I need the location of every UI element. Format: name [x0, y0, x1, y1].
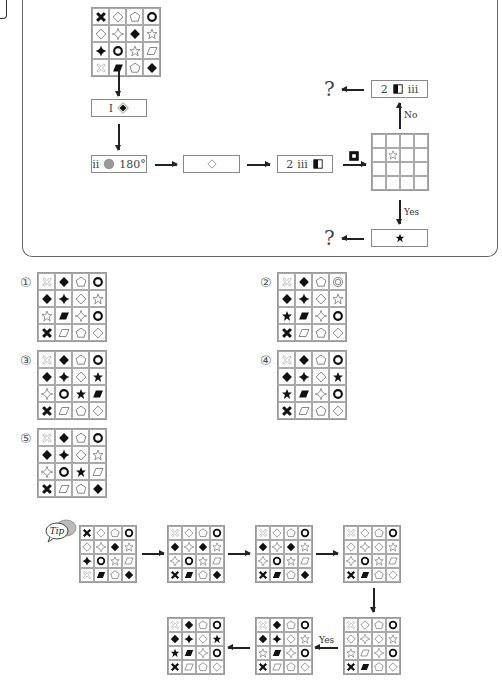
condition-square-icon	[348, 150, 360, 162]
empty-cell	[400, 162, 414, 176]
step4-num: 2	[286, 158, 293, 171]
star-outline-icon	[38, 307, 55, 324]
step2-box: ii 180°	[91, 155, 147, 173]
sparkle-outline-icon	[38, 463, 55, 480]
option-4-number: ④	[260, 353, 272, 368]
step3-box	[183, 155, 240, 173]
diamond-outline-icon	[72, 290, 89, 307]
cross-black-icon	[182, 632, 196, 646]
diamond-black-icon	[278, 290, 295, 307]
option-5-grid[interactable]	[37, 428, 107, 498]
sparkle-outline-icon	[312, 385, 329, 402]
empty-cell	[372, 162, 386, 176]
empty-cell	[400, 176, 414, 190]
diamond-outline-icon	[89, 402, 106, 419]
star-outline-icon	[122, 540, 136, 554]
pentagon-outline-icon	[284, 568, 298, 582]
x-black-icon	[344, 660, 358, 674]
x-black-icon	[256, 568, 270, 582]
diamond-black-icon	[89, 480, 106, 497]
page-corner-mark	[0, 0, 7, 19]
parallelogram-black-icon	[358, 568, 372, 582]
parallelogram-black-icon	[295, 385, 312, 402]
x-outline-icon	[92, 59, 109, 76]
empty-cell	[386, 176, 400, 190]
half-filled-square-icon	[312, 158, 324, 170]
ring-bold-icon	[210, 646, 224, 660]
tip-yes-label: Yes	[319, 635, 334, 645]
x-black-icon	[38, 402, 55, 419]
diamond-outline-icon	[109, 8, 126, 25]
ring-bold-icon	[210, 618, 224, 632]
diamond-black-icon	[168, 540, 182, 554]
parallelogram-outline-icon	[55, 402, 72, 419]
diamond-black-icon	[298, 568, 312, 582]
arrow-left-no	[342, 89, 364, 91]
star-black-icon	[89, 368, 106, 385]
parallelogram-outline-icon	[55, 480, 72, 497]
ring-bold-icon	[298, 618, 312, 632]
pentagon-outline-icon	[284, 660, 298, 674]
option-3-grid[interactable]	[37, 350, 107, 420]
diamond-black-icon	[38, 446, 55, 463]
pentagon-outline-icon	[312, 273, 329, 290]
x-outline-icon	[256, 526, 270, 540]
diamond-black-icon	[295, 351, 312, 368]
no-label: No	[404, 110, 417, 120]
x-outline-icon	[278, 273, 295, 290]
parallelogram-black-icon	[94, 568, 108, 582]
ring-bold-icon	[182, 554, 196, 568]
sparkle-outline-icon	[270, 540, 284, 554]
x-black-icon	[278, 402, 295, 419]
diamond-outline-icon	[358, 618, 372, 632]
diamond-black-icon	[143, 59, 160, 76]
cross-black-icon	[55, 446, 72, 463]
tip-grid-4	[343, 525, 401, 583]
x-outline-icon	[38, 351, 55, 368]
diamond-black-icon	[256, 632, 270, 646]
star-black-icon	[278, 307, 295, 324]
diamond-black-icon	[168, 632, 182, 646]
tip-grid-7	[167, 617, 225, 675]
x-outline-icon	[80, 568, 94, 582]
check-grid	[371, 133, 429, 191]
arrow-right-1	[155, 164, 177, 166]
ring-bold-icon	[94, 554, 108, 568]
ring-bold-icon	[386, 646, 400, 660]
sparkle-outline-icon	[358, 540, 372, 554]
ring-bold-icon	[55, 385, 72, 402]
diamond-outline-icon	[312, 368, 329, 385]
tip-icon: Tip	[44, 518, 78, 544]
parallelogram-black-icon	[89, 385, 106, 402]
x-outline-icon	[278, 351, 295, 368]
sparkle-outline-icon	[372, 646, 386, 660]
parallelogram-outline-icon	[358, 646, 372, 660]
parallelogram-black-icon	[182, 646, 196, 660]
arrow-down-2	[118, 124, 120, 150]
option-4-grid[interactable]	[277, 350, 347, 420]
parallelogram-outline-icon	[182, 660, 196, 674]
sparkle-outline-icon	[182, 540, 196, 554]
option-1-grid[interactable]	[37, 272, 107, 342]
arrow-right-2	[247, 164, 270, 166]
option-2-grid[interactable]	[277, 272, 347, 342]
diamond-outline-icon	[358, 526, 372, 540]
ring-bold-icon	[358, 554, 372, 568]
x-black-icon	[80, 526, 94, 540]
sparkle-outline-icon	[38, 385, 55, 402]
arrow-down-1	[118, 70, 120, 96]
svg-text:Tip: Tip	[50, 526, 65, 536]
empty-cell	[414, 162, 428, 176]
diamond-outline-icon	[196, 632, 210, 646]
star-outline-icon	[329, 290, 346, 307]
step1-label: I	[109, 102, 113, 115]
empty-cell	[414, 176, 428, 190]
diamond-outline-icon	[372, 540, 386, 554]
no-result-box: 2 iii	[371, 80, 428, 98]
parallelogram-black-icon	[270, 646, 284, 660]
tip-arrow-left-2	[228, 647, 250, 649]
gray-circle-icon	[103, 158, 115, 170]
star-outline-icon	[298, 540, 312, 554]
star-outline-icon	[143, 25, 160, 42]
arrow-up-no	[399, 103, 401, 129]
